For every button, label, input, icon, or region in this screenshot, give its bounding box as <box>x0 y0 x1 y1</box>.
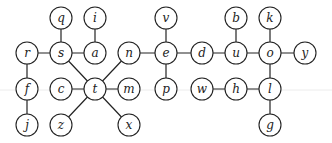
node-label: v <box>163 11 170 25</box>
node-r: r <box>16 42 38 64</box>
node-a: a <box>84 42 106 64</box>
node-z: z <box>50 114 72 136</box>
node-label: c <box>58 82 65 96</box>
node-x: x <box>118 114 140 136</box>
node-v: v <box>155 7 177 29</box>
node-b: b <box>225 7 247 29</box>
node-e: e <box>155 42 177 64</box>
node-label: i <box>93 11 97 25</box>
node-n: n <box>118 42 140 64</box>
node-s: s <box>50 42 72 64</box>
node-label: k <box>266 11 273 25</box>
node-w: w <box>191 78 213 100</box>
node-m: m <box>118 78 140 100</box>
node-y: y <box>294 42 316 64</box>
node-label: z <box>57 118 65 132</box>
node-label: q <box>57 11 65 25</box>
node-h: h <box>225 78 247 100</box>
node-l: l <box>259 78 281 100</box>
node-label: d <box>198 46 206 60</box>
node-j: j <box>16 114 38 136</box>
node-label: m <box>123 82 134 96</box>
node-label: s <box>58 46 64 60</box>
edges-group <box>27 18 305 125</box>
node-g: g <box>259 114 281 136</box>
node-t: t <box>84 78 106 100</box>
node-label: p <box>162 82 170 96</box>
node-i: i <box>84 7 106 29</box>
node-p: p <box>155 78 177 100</box>
node-q: q <box>50 7 72 29</box>
node-label: u <box>232 46 240 60</box>
node-label: n <box>125 46 133 60</box>
node-label: l <box>268 82 272 96</box>
node-k: k <box>259 7 281 29</box>
node-label: x <box>126 118 133 132</box>
node-label: g <box>266 118 274 132</box>
node-label: b <box>232 11 240 25</box>
node-label: o <box>266 46 273 60</box>
node-label: y <box>301 46 309 60</box>
node-label: a <box>91 46 98 60</box>
node-label: w <box>197 82 208 96</box>
node-f: f <box>16 78 38 100</box>
node-label: t <box>93 82 98 96</box>
node-o: o <box>259 42 281 64</box>
node-d: d <box>191 42 213 64</box>
graph-diagram: qivbkrsaneduoyfctmpwhljzxg <box>0 0 332 143</box>
node-c: c <box>50 78 72 100</box>
node-label: e <box>162 46 169 60</box>
node-label: h <box>232 82 240 96</box>
node-u: u <box>225 42 247 64</box>
